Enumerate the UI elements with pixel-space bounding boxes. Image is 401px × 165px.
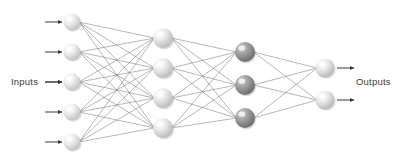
edges-hidden1-to-hidden2 xyxy=(172,38,237,128)
neuron-node xyxy=(153,88,173,108)
neural-network-diagram: Inputs Outputs xyxy=(0,0,401,165)
inputs-label: Inputs xyxy=(11,76,38,88)
connection-edge xyxy=(79,38,155,112)
neuron-node xyxy=(153,58,173,78)
connection-edge xyxy=(172,98,237,118)
node-highlight xyxy=(156,62,163,67)
connection-edge xyxy=(172,52,237,68)
outputs-label: Outputs xyxy=(356,76,391,88)
neuron-node xyxy=(316,91,335,110)
neuron-node xyxy=(64,134,81,151)
node-highlight xyxy=(319,94,325,99)
edges-hidden2-to-output xyxy=(254,52,318,118)
node-highlight xyxy=(319,62,325,67)
node-highlight xyxy=(238,112,245,117)
node-highlight xyxy=(156,32,163,37)
node-highlight xyxy=(66,77,72,81)
neuron-node xyxy=(64,44,81,61)
node-highlight xyxy=(238,79,245,84)
connection-edge xyxy=(172,68,237,118)
connection-edge xyxy=(79,128,155,142)
neuron-node xyxy=(153,118,173,138)
connection-edge xyxy=(254,100,318,118)
connection-edge xyxy=(79,98,155,142)
neuron-node xyxy=(153,28,173,48)
node-highlight xyxy=(66,137,72,141)
input-arrows xyxy=(45,22,62,142)
node-highlight xyxy=(156,122,163,127)
output-layer-nodes xyxy=(316,59,336,111)
edges-input-to-hidden1 xyxy=(79,22,155,142)
neuron-node xyxy=(235,42,255,62)
neuron-node xyxy=(64,104,81,121)
network-graphic xyxy=(0,0,401,165)
connection-edge xyxy=(254,52,318,68)
input-layer-nodes xyxy=(64,14,82,152)
output-arrows xyxy=(337,68,354,100)
node-highlight xyxy=(156,92,163,97)
connection-edge xyxy=(79,68,155,142)
neuron-node xyxy=(64,74,81,91)
connection-edge xyxy=(172,52,237,98)
neuron-node xyxy=(235,75,255,95)
connection-edge xyxy=(172,68,237,85)
hidden-layer-1-nodes xyxy=(153,28,174,139)
connection-edge xyxy=(254,68,318,85)
neuron-node xyxy=(235,108,255,128)
connection-edge xyxy=(172,52,237,128)
connection-edge xyxy=(79,38,155,142)
node-highlight xyxy=(66,47,72,51)
node-highlight xyxy=(66,107,72,111)
node-highlight xyxy=(66,17,72,21)
neuron-node xyxy=(316,59,335,78)
hidden-layer-2-nodes xyxy=(235,42,256,129)
connection-edge xyxy=(79,38,155,52)
connection-edge xyxy=(79,22,155,38)
node-highlight xyxy=(238,46,245,51)
connection-edge xyxy=(172,118,237,128)
neuron-node xyxy=(64,14,81,31)
